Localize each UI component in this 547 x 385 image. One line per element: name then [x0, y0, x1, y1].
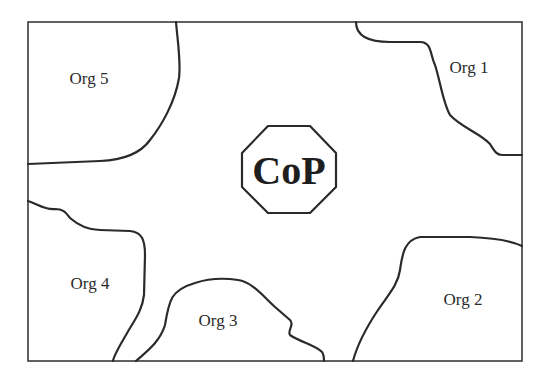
cop-diagram: CoP Org 1 Org 2 Org 3 Org 4 Org 5: [0, 0, 547, 385]
cop-label: CoP: [252, 148, 325, 193]
org5-label: Org 5: [70, 69, 109, 88]
org4-label: Org 4: [71, 274, 110, 293]
org3-label: Org 3: [199, 311, 238, 330]
org2-boundary: [353, 237, 522, 361]
org1-boundary: [356, 22, 522, 155]
org5-boundary: [28, 22, 180, 164]
org2-label: Org 2: [444, 290, 483, 309]
org1-label: Org 1: [450, 58, 489, 77]
